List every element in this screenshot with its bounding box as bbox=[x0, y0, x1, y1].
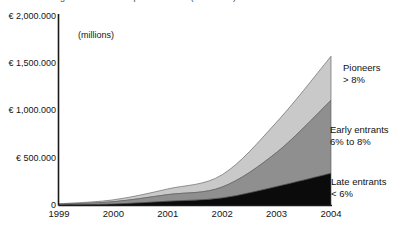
y-tick-label: € 1,000.000 bbox=[8, 105, 56, 115]
x-tick-label: 2001 bbox=[157, 208, 178, 219]
series-label-early-entrants-line1: Early entrants bbox=[330, 124, 389, 135]
x-tick-label: 2000 bbox=[103, 208, 124, 219]
series-label-late-entrants-line2: < 6% bbox=[331, 188, 386, 200]
series-label-late-entrants-line1: Late entrants bbox=[331, 176, 386, 187]
y-tick-label: € 2,000.000 bbox=[8, 11, 56, 21]
series-label-early-entrants-line2: 6% to 8% bbox=[330, 136, 389, 148]
x-tick-label: 1999 bbox=[48, 208, 69, 219]
series-label-late-entrants: Late entrants < 6% bbox=[331, 176, 386, 199]
y-axis-labels: € 2,000.000€ 1,500.000€ 1,000.000€ 500.0… bbox=[0, 0, 56, 234]
x-tick-label: 2002 bbox=[212, 208, 233, 219]
units-note: (millions) bbox=[78, 30, 114, 41]
series-label-pioneers-line1: Pioneers bbox=[343, 62, 381, 73]
area-series-group bbox=[59, 56, 331, 205]
y-tick-label: € 1,500.000 bbox=[8, 58, 56, 68]
series-label-early-entrants: Early entrants 6% to 8% bbox=[330, 124, 389, 147]
series-label-pioneers-line2: > 8% bbox=[343, 74, 381, 86]
series-label-pioneers: Pioneers > 8% bbox=[343, 62, 381, 85]
y-tick-label: € 500.000 bbox=[16, 153, 56, 163]
x-axis-labels: 199920002001200220032004 bbox=[0, 208, 407, 226]
stacked-area-chart: growth of the European markets (in milli… bbox=[0, 0, 407, 234]
x-tick-label: 2003 bbox=[266, 208, 287, 219]
x-tick-label: 2004 bbox=[320, 208, 341, 219]
